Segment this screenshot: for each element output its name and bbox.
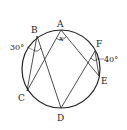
segment-AC [27, 30, 61, 91]
angle-label-40: 40° [104, 55, 118, 64]
segment-AE [61, 30, 99, 76]
angle-label-30: 30° [10, 43, 24, 52]
label-B: B [31, 25, 38, 35]
label-E: E [101, 76, 108, 86]
label-A: A [56, 19, 64, 29]
diagram-svg: A B C D E F 30° 40° x [0, 0, 127, 130]
geometry-diagram: A B C D E F 30° 40° x [0, 0, 127, 130]
label-D: D [57, 113, 64, 123]
label-F: F [96, 39, 102, 49]
segment-BD [37, 36, 61, 108]
segment-FD [61, 51, 95, 108]
angle-label-x: x [59, 34, 64, 43]
label-C: C [18, 93, 25, 103]
